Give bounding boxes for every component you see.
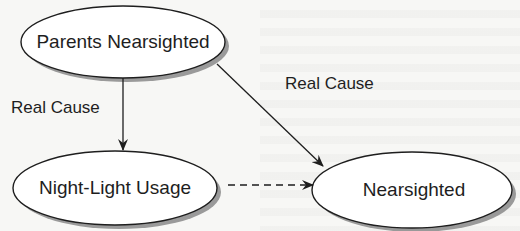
node-label-nearsighted: Nearsighted	[363, 179, 465, 201]
causal-diagram: Parents Nearsighted Night-Light Usage Ne…	[0, 0, 520, 231]
node-label-parents-nearsighted: Parents Nearsighted	[36, 31, 209, 53]
node-label-night-light-usage: Night-Light Usage	[39, 177, 191, 199]
edge-label-real-cause-left: Real Cause	[11, 98, 100, 118]
edge-label-real-cause-right: Real Cause	[285, 74, 374, 94]
